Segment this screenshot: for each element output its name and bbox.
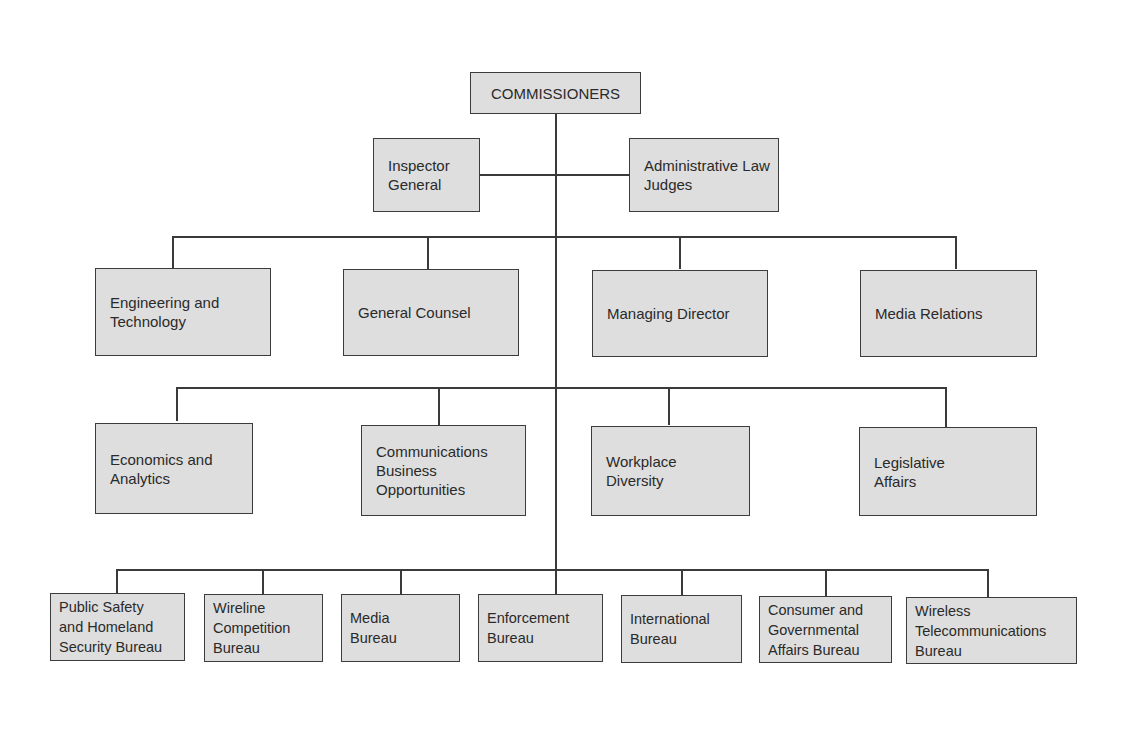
bureau-drop-3 (400, 569, 402, 595)
managing-director-label: Managing Director (607, 304, 730, 323)
bureau-drop-6 (825, 569, 827, 596)
row1-bus-line (172, 236, 957, 238)
administrative-law-judges-box: Administrative Law Judges (629, 138, 779, 212)
wireless-telecommunications-bureau-label: Wireless Telecommunications Bureau (915, 601, 1046, 661)
legislative-affairs-box: Legislative Affairs (859, 427, 1037, 516)
enforcement-bureau-label: Enforcement Bureau (487, 608, 569, 648)
bureau-drop-5 (681, 569, 683, 595)
managing-director-box: Managing Director (592, 270, 768, 357)
row1-drop-4 (955, 236, 957, 269)
row1-drop-2 (427, 236, 429, 269)
media-relations-label: Media Relations (875, 304, 983, 323)
bureau-drop-1 (116, 569, 118, 594)
general-counsel-box: General Counsel (343, 269, 519, 356)
consumer-governmental-affairs-bureau-label: Consumer and Governmental Affairs Bureau (768, 600, 863, 660)
row2-drop-1 (176, 387, 178, 421)
commissioners-label: COMMISSIONERS (491, 84, 620, 103)
international-bureau-box: International Bureau (621, 595, 742, 663)
bureau-drop-2 (262, 569, 264, 595)
inspector-general-label: Inspector General (388, 156, 450, 194)
row1-drop-1 (172, 236, 174, 269)
public-safety-homeland-security-bureau-label: Public Safety and Homeland Security Bure… (59, 597, 162, 657)
media-bureau-box: Media Bureau (341, 594, 460, 662)
communications-business-opportunities-label: Communications Business Opportunities (376, 442, 488, 499)
engineering-technology-label: Engineering and Technology (110, 293, 219, 331)
workplace-diversity-label: Workplace Diversity (606, 452, 677, 490)
row2-bus-line (176, 387, 947, 389)
wireline-competition-bureau-label: Wireline Competition Bureau (213, 598, 290, 658)
inspector-general-box: Inspector General (373, 138, 480, 212)
communications-business-opportunities-box: Communications Business Opportunities (361, 425, 526, 516)
main-spine-line (555, 113, 557, 594)
media-bureau-label: Media Bureau (350, 608, 397, 648)
general-counsel-label: General Counsel (358, 303, 471, 322)
economics-analytics-box: Economics and Analytics (95, 423, 253, 514)
bureau-drop-7 (987, 569, 989, 597)
staff-connector-line (479, 174, 629, 176)
media-relations-box: Media Relations (860, 270, 1037, 357)
engineering-technology-box: Engineering and Technology (95, 268, 271, 356)
row2-drop-3 (668, 387, 670, 425)
administrative-law-judges-label: Administrative Law Judges (644, 156, 770, 194)
public-safety-homeland-security-bureau-box: Public Safety and Homeland Security Bure… (50, 593, 185, 661)
economics-analytics-label: Economics and Analytics (110, 450, 213, 488)
international-bureau-label: International Bureau (630, 609, 710, 649)
workplace-diversity-box: Workplace Diversity (591, 426, 750, 516)
enforcement-bureau-box: Enforcement Bureau (478, 594, 603, 662)
consumer-governmental-affairs-bureau-box: Consumer and Governmental Affairs Bureau (759, 596, 892, 663)
row1-drop-3 (679, 236, 681, 269)
bureau-bus-line (116, 569, 989, 571)
wireline-competition-bureau-box: Wireline Competition Bureau (204, 594, 323, 662)
legislative-affairs-label: Legislative Affairs (874, 453, 945, 491)
row2-drop-2 (438, 387, 440, 425)
row2-drop-4 (945, 387, 947, 428)
wireless-telecommunications-bureau-box: Wireless Telecommunications Bureau (906, 597, 1077, 664)
commissioners-box: COMMISSIONERS (470, 72, 641, 114)
